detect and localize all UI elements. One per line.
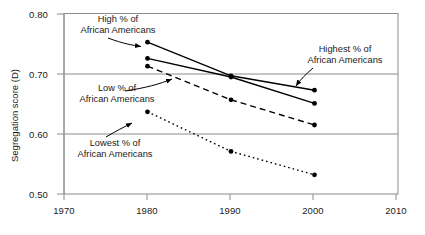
chart-container: 0.80 0.70 0.60 0.50 1970 1980 1990 2000 …: [0, 0, 425, 235]
data-point: [145, 40, 150, 45]
series-line-high: [148, 58, 315, 103]
leader-arrow-high: [108, 38, 141, 47]
series-lowest: [145, 109, 317, 177]
leader-arrow-lowest: [106, 123, 132, 137]
data-point: [229, 75, 234, 80]
data-point: [229, 149, 234, 154]
leader-arrow-low: [125, 79, 172, 91]
data-point: [145, 109, 150, 114]
chart-canvas: [0, 0, 425, 235]
data-point: [312, 101, 317, 106]
leader-arrow-highest: [296, 68, 313, 86]
data-point: [312, 88, 317, 93]
data-point: [312, 123, 317, 128]
series-line-lowest: [148, 112, 315, 175]
data-point: [145, 56, 150, 61]
series-highest: [145, 40, 317, 93]
data-point: [312, 172, 317, 177]
data-point: [145, 64, 150, 69]
series-markers-highest: [145, 40, 317, 93]
series-line-highest: [148, 42, 315, 90]
data-point: [229, 97, 234, 102]
series-markers-lowest: [145, 109, 317, 177]
